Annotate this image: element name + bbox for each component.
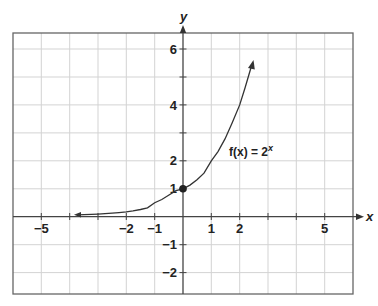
- x-tick-label: 2: [236, 221, 243, 236]
- y-tick-label: 2: [170, 153, 177, 168]
- x-tick-label: −2: [119, 221, 134, 236]
- x-axis: x: [13, 209, 374, 224]
- y-tick-label: −1: [162, 237, 177, 252]
- function-label-exponent: x: [267, 143, 274, 153]
- function-label: f(x) = 2x: [229, 143, 274, 159]
- y-axis: y: [179, 9, 188, 294]
- x-tick-label: 5: [321, 221, 328, 236]
- function-label-main: f(x) = 2: [229, 145, 268, 159]
- y-tick-label: −2: [162, 265, 177, 280]
- point-0-1: [179, 185, 187, 193]
- x-axis-arrow-icon: [356, 214, 364, 220]
- y-axis-arrow-icon: [180, 25, 186, 33]
- curve-right-arrow-icon: [248, 60, 255, 70]
- x-tick-label: −5: [34, 221, 49, 236]
- y-axis-title: y: [179, 9, 188, 24]
- x-tick-label: −1: [147, 221, 162, 236]
- graph: x y −5 −2 −1 1 2 5 6 4 2 1 −1 −2: [0, 0, 378, 306]
- exponential-curve: [78, 66, 252, 215]
- y-tick-label: 4: [170, 98, 178, 113]
- x-tick-labels: −5 −2 −1 1 2 5: [34, 221, 328, 236]
- y-tick-label: 6: [170, 42, 177, 57]
- x-tick-label: 1: [208, 221, 215, 236]
- x-axis-title: x: [365, 209, 374, 224]
